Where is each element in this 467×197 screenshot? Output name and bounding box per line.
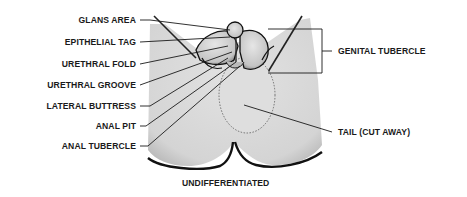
label-anal-pit: ANAL PIT: [0, 121, 136, 131]
embryo-anatomy-drawing: [0, 0, 467, 197]
right-urethral-fold-lobe: [240, 30, 268, 69]
label-epithelial-tag: EPITHELIAL TAG: [0, 37, 136, 47]
label-urethral-groove: URETHRAL GROOVE: [0, 80, 136, 90]
label-genital-tubercle: GENITAL TUBERCLE: [338, 46, 426, 56]
label-anal-tubercle: ANAL TUBERCLE: [0, 141, 136, 151]
label-tail-cut-away: TAIL (CUT AWAY): [338, 127, 410, 137]
label-glans-area: GLANS AREA: [0, 15, 136, 25]
diagram-caption: UNDIFFERENTIATED: [182, 178, 269, 188]
label-lateral-buttress: LATERAL BUTTRESS: [0, 101, 136, 111]
label-urethral-fold: URETHRAL FOLD: [0, 59, 136, 69]
